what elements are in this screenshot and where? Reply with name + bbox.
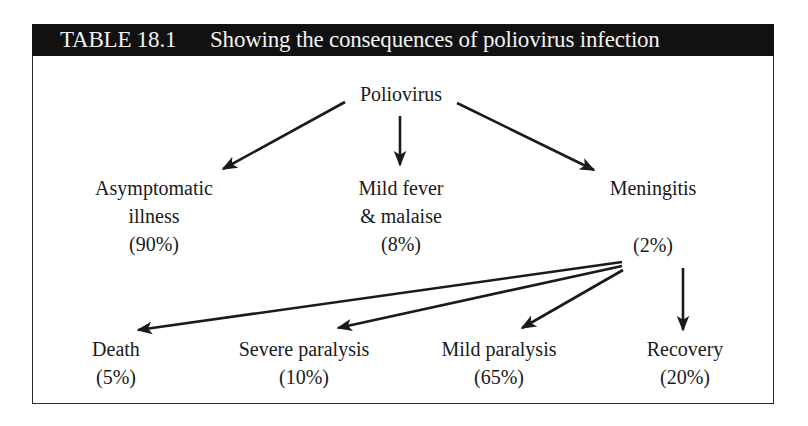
node-meningitis-percent: (2%) — [633, 231, 673, 259]
node-label: Mild paralysis — [442, 335, 557, 363]
node-mild-fever-malaise: Mild fever & malaise (8%) — [359, 174, 444, 258]
node-percent: (5%) — [92, 363, 140, 391]
node-recovery: Recovery (20%) — [647, 335, 724, 391]
node-label: Recovery — [647, 335, 724, 363]
node-label: Death — [92, 335, 140, 363]
node-death: Death (5%) — [92, 335, 140, 391]
node-label: Meningitis — [610, 174, 697, 202]
node-percent: (90%) — [95, 230, 213, 258]
node-poliovirus: Poliovirus — [360, 80, 442, 108]
node-percent: (20%) — [647, 363, 724, 391]
node-label: Severe paralysis — [239, 335, 370, 363]
node-percent: (8%) — [359, 230, 444, 258]
node-label: Poliovirus — [360, 80, 442, 108]
node-severe-paralysis: Severe paralysis (10%) — [239, 335, 370, 391]
node-label-line1: Mild fever — [359, 174, 444, 202]
node-label-line2: & malaise — [359, 202, 444, 230]
node-percent: (65%) — [442, 363, 557, 391]
arrow-to-mild-paralysis — [522, 270, 623, 328]
arrow-to-asymptomatic — [223, 102, 345, 169]
node-percent: (2%) — [633, 231, 673, 259]
node-percent: (10%) — [239, 363, 370, 391]
node-label-line1: Asymptomatic — [95, 174, 213, 202]
node-meningitis: Meningitis — [610, 174, 697, 202]
node-label-line2: illness — [95, 202, 213, 230]
node-asymptomatic-illness: Asymptomatic illness (90%) — [95, 174, 213, 258]
arrow-to-meningitis — [457, 103, 594, 170]
node-mild-paralysis: Mild paralysis (65%) — [442, 335, 557, 391]
